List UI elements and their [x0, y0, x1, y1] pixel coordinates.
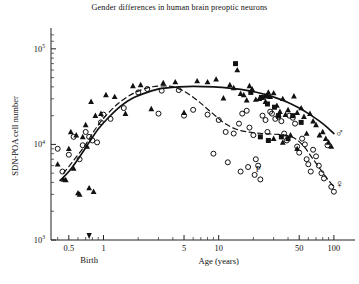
data-point-circle [304, 157, 309, 162]
data-point-circle [121, 106, 126, 111]
data-point-triangle [271, 90, 277, 95]
data-point-circle [306, 162, 311, 167]
data-point-circle [308, 169, 313, 174]
data-point-triangle [88, 99, 94, 104]
data-point-circle [251, 133, 256, 138]
data-point-triangle [234, 67, 240, 72]
data-point-triangle [285, 107, 291, 112]
data-point-triangle [130, 83, 136, 88]
data-point-triangle [68, 129, 74, 134]
birth-label: Birth [80, 255, 98, 265]
data-point-circle [321, 176, 326, 181]
data-point-circle [205, 112, 210, 117]
data-point-square [258, 134, 263, 139]
data-point-circle [108, 116, 113, 121]
data-point-square [279, 134, 284, 139]
data-point-square [272, 105, 277, 110]
x-tick-label: 50 [295, 244, 303, 253]
data-point-circle [191, 107, 196, 112]
fit-curve-female-fit [64, 86, 334, 187]
data-point-square [248, 90, 253, 95]
data-point-triangle [205, 79, 211, 84]
data-point-circle [247, 125, 252, 130]
data-point-circle [246, 165, 251, 170]
data-point-triangle [280, 96, 286, 101]
data-point-circle [225, 160, 230, 165]
male-symbol-icon: ♂ [335, 126, 344, 140]
scatter-plot: 103104105SDN-POA cell number0.5151050100… [0, 0, 359, 284]
data-point-triangle [221, 95, 227, 100]
data-point-circle [66, 152, 71, 157]
data-point-triangle [271, 136, 277, 141]
data-point-square [233, 61, 238, 66]
x-tick-label: 1 [101, 244, 105, 253]
data-point-triangle [138, 82, 144, 87]
x-axis-title: Age (years) [199, 256, 239, 266]
data-point-triangle [123, 111, 129, 116]
data-point-circle [95, 140, 100, 145]
data-point-triangle [304, 130, 310, 135]
data-point-square [265, 101, 270, 106]
data-point-circle [211, 151, 216, 156]
data-point-circle [258, 177, 263, 182]
data-point-triangle [291, 93, 297, 98]
data-point-circle [293, 121, 298, 126]
female-symbol-icon: ♀ [335, 177, 344, 191]
data-point-circle [263, 118, 268, 123]
data-point-triangle [301, 114, 307, 119]
data-point-triangle [66, 146, 72, 151]
figure-container: Gender differences in human brain preopt… [0, 0, 359, 284]
data-point-circle [300, 136, 305, 141]
data-point-triangle [112, 94, 118, 99]
data-point-circle [331, 189, 336, 194]
data-point-circle [314, 154, 319, 159]
data-point-triangle [323, 136, 329, 141]
data-point-circle [329, 184, 334, 189]
data-point-circle [83, 129, 88, 134]
data-point-square [264, 94, 269, 99]
data-point-circle [55, 146, 60, 151]
data-point-circle [156, 111, 161, 116]
data-point-circle [238, 169, 243, 174]
data-point-circle [253, 157, 258, 162]
x-tick-label: 0.5 [64, 244, 74, 253]
data-point-triangle [148, 106, 154, 111]
data-point-triangle [194, 78, 200, 83]
data-point-circle [279, 119, 284, 124]
data-point-circle [236, 121, 241, 126]
data-point-square [266, 138, 271, 143]
y-tick-label: 103 [34, 234, 45, 245]
data-point-circle [311, 147, 316, 152]
data-point-circle [302, 142, 307, 147]
data-point-triangle [91, 189, 97, 194]
data-point-square [259, 95, 264, 100]
data-point-triangle [86, 185, 92, 190]
data-point-triangle [227, 82, 233, 87]
data-point-triangle [244, 97, 250, 102]
data-point-triangle [83, 122, 89, 127]
fit-curve-male-fit [60, 86, 334, 180]
data-point-triangle [160, 80, 166, 85]
y-tick-label: 104 [34, 139, 45, 150]
data-point-triangle [172, 79, 178, 84]
x-tick-label: 100 [328, 244, 341, 253]
y-axis-title: SDN-POA cell number [10, 96, 20, 176]
data-point-circle [231, 131, 236, 136]
data-point-circle [223, 129, 228, 134]
x-tick-label: 5 [182, 244, 186, 253]
data-point-square [299, 120, 304, 125]
data-point-circle [244, 108, 249, 113]
birth-arrow-icon [87, 233, 92, 239]
x-tick-label: 10 [215, 244, 223, 253]
data-point-triangle [103, 92, 109, 97]
data-point-circle [252, 172, 257, 177]
data-point-triangle [92, 113, 98, 118]
y-tick-label: 105 [34, 43, 45, 54]
data-point-triangle [320, 129, 326, 134]
data-point-triangle [55, 161, 61, 166]
data-point-triangle [213, 76, 219, 81]
